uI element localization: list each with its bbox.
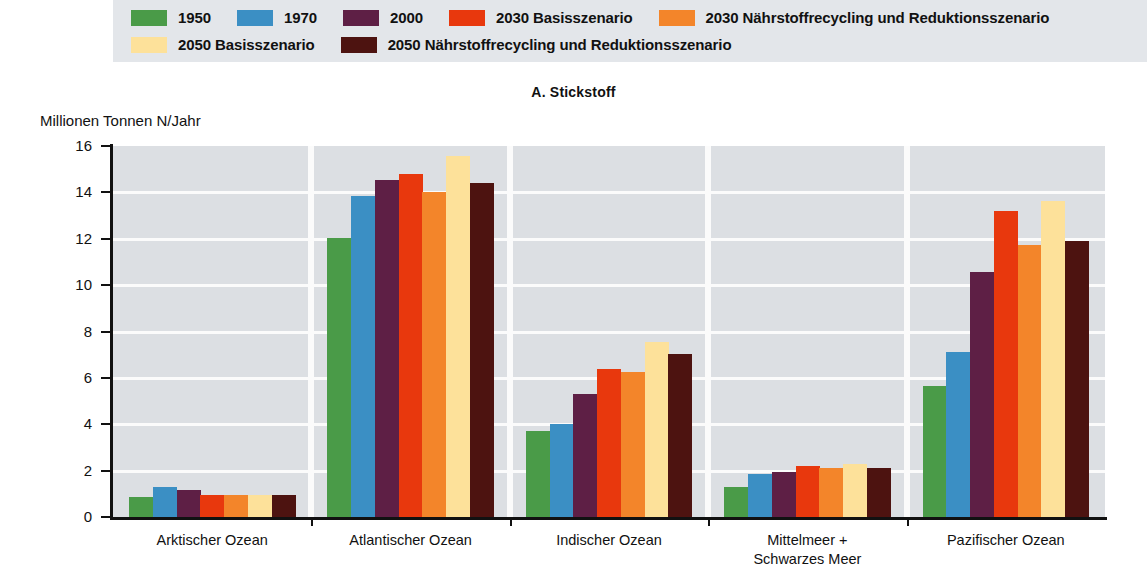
bar	[645, 342, 669, 517]
y-axis-tick-label: 4	[52, 415, 92, 432]
group-separator	[308, 146, 314, 517]
bar	[597, 369, 621, 517]
group-separator	[705, 146, 711, 517]
gridline	[113, 331, 1105, 334]
gridline	[113, 238, 1105, 241]
y-axis-tick-label: 16	[52, 137, 92, 154]
group-separator	[507, 146, 513, 517]
gridline	[113, 191, 1105, 194]
y-axis-tick	[101, 377, 111, 379]
bar	[819, 468, 843, 517]
bar	[446, 156, 470, 517]
bar	[526, 431, 550, 517]
bar	[153, 487, 177, 517]
bar	[573, 394, 597, 517]
x-axis-label: Mittelmeer + Schwarzes Meer	[708, 531, 906, 569]
x-axis-tick	[311, 517, 313, 526]
y-axis-tick	[101, 470, 111, 472]
group-separator	[904, 146, 910, 517]
bar	[248, 495, 272, 517]
bar	[1018, 245, 1042, 517]
y-axis-tick	[101, 423, 111, 425]
bar	[724, 487, 748, 517]
bar	[772, 472, 796, 517]
bar	[327, 238, 351, 517]
bar	[923, 386, 947, 517]
y-axis-tick-label: 10	[52, 276, 92, 293]
x-axis-line	[110, 517, 1107, 520]
bar	[994, 211, 1018, 517]
bar	[796, 466, 820, 517]
x-axis-label: Atlantischer Ozean	[311, 531, 509, 550]
bar	[1041, 201, 1065, 518]
bar	[177, 490, 201, 517]
y-axis-tick	[101, 238, 111, 240]
bar	[867, 468, 891, 517]
gridline	[113, 284, 1105, 287]
y-axis-tick-label: 0	[52, 508, 92, 525]
y-axis-tick-label: 14	[52, 183, 92, 200]
x-axis-label: Pazifischer Ozean	[907, 531, 1105, 550]
bar	[970, 272, 994, 517]
y-axis-tick	[101, 191, 111, 193]
bar	[621, 372, 645, 517]
bar	[550, 424, 574, 517]
bar	[748, 474, 772, 517]
bar	[375, 180, 399, 517]
y-axis-tick	[101, 145, 111, 147]
bar	[399, 174, 423, 517]
chart-plot-wrapper: 1614121086420 Arktischer OzeanAtlantisch…	[0, 0, 1147, 576]
x-axis-label: Indischer Ozean	[510, 531, 708, 550]
y-axis-tick-label: 6	[52, 369, 92, 386]
y-axis-tick	[101, 331, 111, 333]
y-axis-tick-label: 2	[52, 462, 92, 479]
bar	[422, 192, 446, 517]
bar	[200, 495, 224, 517]
bar	[272, 495, 296, 517]
y-axis-tick-label: 12	[52, 230, 92, 247]
y-axis-tick	[101, 284, 111, 286]
y-axis-tick	[101, 516, 111, 518]
y-axis-tick-label: 8	[52, 323, 92, 340]
x-axis-tick	[510, 517, 512, 526]
bar	[946, 352, 970, 517]
bar	[1065, 241, 1089, 517]
bar	[129, 497, 153, 517]
x-axis-label: Arktischer Ozean	[113, 531, 311, 550]
x-axis-tick	[907, 517, 909, 526]
bar	[668, 354, 692, 517]
plot-area	[113, 146, 1105, 517]
bar	[470, 183, 494, 517]
bar	[351, 196, 375, 517]
x-axis-tick	[708, 517, 710, 526]
bar	[224, 495, 248, 517]
bar	[843, 464, 867, 517]
